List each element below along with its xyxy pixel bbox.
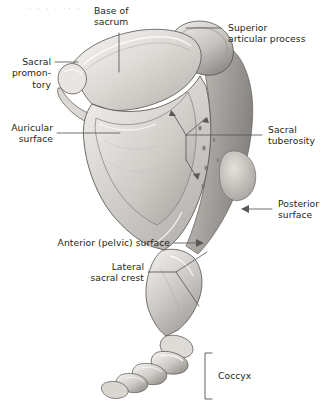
coccyx-segments [101,351,188,398]
label-auricular-surface: Auricular surface [0,122,53,145]
bracket-coccyx [205,353,212,399]
arrowhead-posterior-surface [241,205,249,213]
label-base-of-sacrum: Base of sacrum [94,5,164,28]
background-watermark: · · · · ·· · [28,3,81,14]
label-anterior-pelvic-surface: Anterior (pelvic) surface [36,237,170,248]
label-lateral-sacral-crest: Lateral sacral crest [56,261,144,284]
label-coccyx: Coccyx [218,370,268,381]
label-superior-articular-process: Superior articular process [228,22,326,45]
label-sacral-tuberosity: Sacral tuberosity [268,124,326,147]
sacrum-bone-body [58,21,256,358]
anatomical-figure-sacrum-lateral: · · · · ·· · Base of sacrum Superior art… [0,0,327,409]
label-sacral-promontory: Sacral promon- tory [0,56,51,90]
label-posterior-surface: Posterior surface [278,198,327,221]
